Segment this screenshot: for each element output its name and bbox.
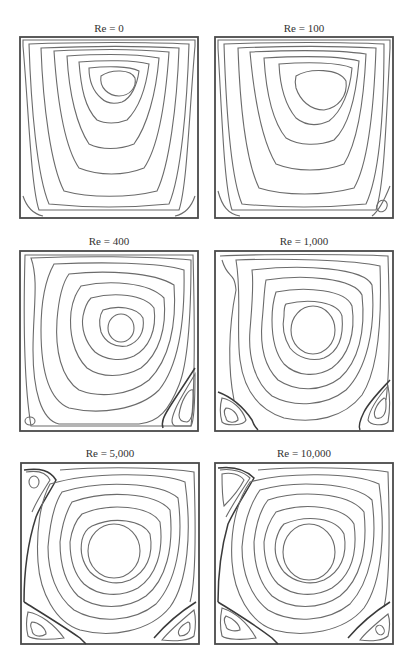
panel-title: Re = 1,000 <box>214 235 394 247</box>
panel-re-0: Re = 0 <box>19 18 199 220</box>
panel-title: Re = 0 <box>19 22 199 34</box>
streamline-plot <box>19 250 199 432</box>
panel-title: Re = 5,000 <box>20 447 200 459</box>
panel-title: Re = 10,000 <box>214 447 394 459</box>
streamline-plot <box>214 462 394 645</box>
panel-re-5000: Re = 5,000 <box>20 445 200 646</box>
streamline-plot <box>214 250 394 432</box>
streamline-plot <box>214 36 394 219</box>
panel-re-100: Re = 100 <box>214 18 394 220</box>
panel-title: Re = 400 <box>19 235 199 247</box>
panel-re-1000: Re = 1,000 <box>214 233 394 433</box>
streamline-plot <box>19 36 199 219</box>
panel-title: Re = 100 <box>214 22 394 34</box>
panel-re-10000: Re = 10,000 <box>214 445 394 646</box>
panel-re-400: Re = 400 <box>19 233 199 433</box>
streamline-plot <box>20 462 200 645</box>
